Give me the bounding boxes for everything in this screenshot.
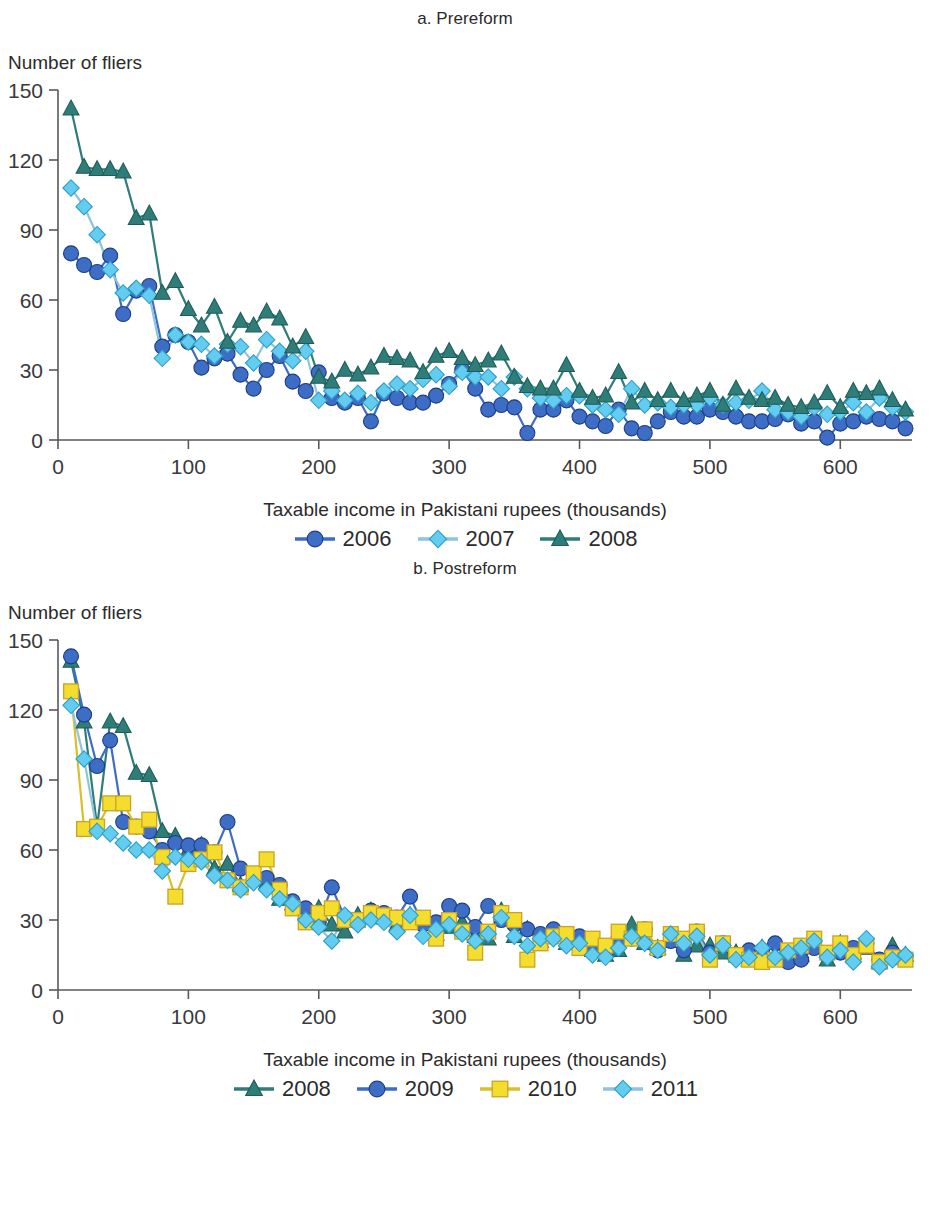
panel-b-title: b. Postreform (0, 560, 930, 577)
svg-text:90: 90 (20, 769, 43, 792)
series-markers-2008 (63, 652, 913, 968)
legend-label: 2009 (405, 1078, 454, 1100)
legend-item-2008[interactable]: 2008 (538, 526, 637, 552)
svg-text:300: 300 (432, 1005, 467, 1028)
svg-text:600: 600 (823, 1005, 858, 1028)
panel-postreform: b. Postreform Number of fliers 030609012… (0, 560, 930, 1102)
panel-b-y-axis-label: Number of fliers (8, 603, 930, 622)
square-marker-icon (478, 1076, 522, 1102)
series-markers-2007 (63, 180, 914, 425)
svg-text:600: 600 (823, 455, 858, 478)
legend-label: 2007 (466, 528, 515, 550)
legend-item-2007[interactable]: 2007 (416, 526, 515, 552)
series-line-2009 (71, 656, 905, 962)
svg-text:60: 60 (20, 289, 43, 312)
legend-item-2010[interactable]: 2010 (478, 1076, 577, 1102)
legend-label: 2011 (651, 1078, 698, 1100)
svg-text:150: 150 (8, 79, 43, 102)
panel-prereform: a. Prereform Number of fliers 0306090120… (0, 0, 930, 552)
panel-b-legend: 2008200920102011 (0, 1076, 930, 1102)
svg-text:0: 0 (52, 455, 64, 478)
legend-label: 2006 (343, 528, 392, 550)
triangle-marker-icon (538, 526, 582, 552)
svg-text:120: 120 (8, 699, 43, 722)
svg-text:100: 100 (171, 455, 206, 478)
svg-text:100: 100 (171, 1005, 206, 1028)
svg-text:500: 500 (692, 1005, 727, 1028)
svg-text:400: 400 (562, 455, 597, 478)
diamond-marker-icon (601, 1076, 645, 1102)
svg-text:150: 150 (8, 629, 43, 652)
svg-text:200: 200 (301, 455, 336, 478)
legend-label: 2010 (528, 1078, 577, 1100)
panel-b-x-axis-label: Taxable income in Pakistani rupees (thou… (0, 1050, 930, 1069)
svg-text:60: 60 (20, 839, 43, 862)
legend-label: 2008 (282, 1078, 331, 1100)
svg-text:90: 90 (20, 219, 43, 242)
svg-text:0: 0 (52, 1005, 64, 1028)
svg-text:300: 300 (432, 455, 467, 478)
svg-text:400: 400 (562, 1005, 597, 1028)
svg-text:0: 0 (31, 429, 43, 452)
figure-root: a. Prereform Number of fliers 0306090120… (0, 0, 930, 1213)
panel-a-plot: 03060901201500100200300400500600 (0, 78, 930, 498)
series-markers-2011 (63, 697, 914, 975)
svg-text:30: 30 (20, 359, 43, 382)
panel-b-plot: 03060901201500100200300400500600 (0, 628, 930, 1048)
panel-a-svg: 03060901201500100200300400500600 (0, 78, 930, 498)
circle-marker-icon (293, 526, 337, 552)
legend-item-2009[interactable]: 2009 (355, 1076, 454, 1102)
series-markers-2009 (64, 649, 913, 970)
diamond-marker-icon (416, 526, 460, 552)
legend-item-2008[interactable]: 2008 (232, 1076, 331, 1102)
panel-a-legend: 200620072008 (0, 526, 930, 552)
panel-b-svg: 03060901201500100200300400500600 (0, 628, 930, 1048)
series-line-2010 (71, 691, 905, 962)
panel-a-title: a. Prereform (0, 0, 930, 27)
legend-label: 2008 (588, 528, 637, 550)
legend-item-2006[interactable]: 2006 (293, 526, 392, 552)
svg-text:200: 200 (301, 1005, 336, 1028)
panel-a-x-axis-label: Taxable income in Pakistani rupees (thou… (0, 500, 930, 519)
svg-text:500: 500 (692, 455, 727, 478)
legend-item-2011[interactable]: 2011 (601, 1076, 698, 1102)
series-line-2008 (71, 661, 905, 962)
triangle-marker-icon (232, 1076, 276, 1102)
panel-a-y-axis-label: Number of fliers (8, 53, 930, 72)
svg-text:120: 120 (8, 149, 43, 172)
svg-text:0: 0 (31, 979, 43, 1002)
circle-marker-icon (355, 1076, 399, 1102)
svg-text:30: 30 (20, 909, 43, 932)
